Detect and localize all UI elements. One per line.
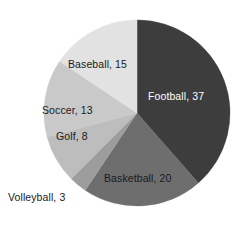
pie-label-football: Football, 37 <box>148 90 204 102</box>
pie-label-golf: Golf, 8 <box>56 130 88 142</box>
pie-label-basketball: Basketball, 20 <box>104 172 171 184</box>
pie-label-baseball: Baseball, 15 <box>68 58 127 70</box>
pie-label-soccer: Soccer, 13 <box>42 104 93 116</box>
pie-chart: Football, 37 Basketball, 20 Volleyball, … <box>0 0 242 225</box>
pie-label-volleyball: Volleyball, 3 <box>8 191 65 203</box>
